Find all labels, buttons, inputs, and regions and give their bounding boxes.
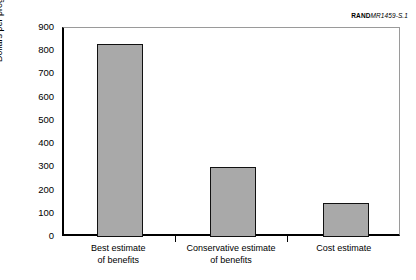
x-axis-category-label: Best estimateof benefits	[62, 243, 175, 266]
bar	[210, 167, 256, 237]
x-axis-category-label-line: of benefits	[175, 255, 288, 267]
y-axis-tick-label: 200	[0, 183, 54, 196]
x-axis-category-label: Cost estimate	[287, 243, 400, 255]
bar-chart-figure: RANDMR1459-S.1 Dollars per program parti…	[0, 0, 416, 280]
x-axis-category-label-line: Cost estimate	[287, 243, 400, 255]
y-axis-tick-label: 700	[0, 66, 54, 79]
bar	[97, 44, 143, 237]
plot-area	[62, 27, 400, 236]
y-axis-tick-label: 900	[0, 20, 54, 33]
y-axis-tick-label: 800	[0, 43, 54, 56]
document-number-text: MR1459-S.1	[371, 12, 409, 19]
y-axis-tick-label: 0	[0, 229, 54, 242]
rand-logo-text: RAND	[351, 12, 370, 19]
y-axis-tick-label: 100	[0, 206, 54, 219]
x-axis-category-label-line: of benefits	[62, 255, 175, 267]
x-axis-tick-mark	[175, 236, 176, 242]
x-axis-category-label: Conservative estimateof benefits	[175, 243, 288, 266]
y-axis-tick-label: 600	[0, 90, 54, 103]
x-axis-tick-mark	[287, 236, 288, 242]
y-axis-tick-label: 300	[0, 159, 54, 172]
rand-document-credit: RANDMR1459-S.1	[351, 12, 408, 19]
y-axis-tick-label: 500	[0, 113, 54, 126]
x-axis-category-label-line: Best estimate	[62, 243, 175, 255]
bar	[323, 203, 369, 237]
x-axis-category-label-line: Conservative estimate	[175, 243, 288, 255]
y-axis-tick-label: 400	[0, 136, 54, 149]
